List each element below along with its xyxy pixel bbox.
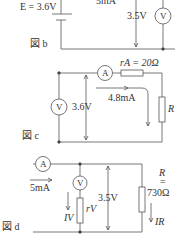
voltage-label: 3.5V [127,10,148,21]
resistor-label: R [167,103,174,114]
current-label: 5mA [96,0,117,6]
resistor-value: 730Ω [147,187,169,198]
figure-caption-c: 図 c [22,130,40,141]
voltage-label: 3.5V [98,192,119,203]
current-label: 4.8mA [108,92,136,103]
voltmeter-symbol: V [160,11,167,21]
resistor-equals: = [160,176,166,187]
voltmeter-symbol: V [56,102,63,112]
current-label: 5mA [30,182,51,193]
figure-caption-d: 図 d [2,221,20,232]
source-label: E = 3.6V [20,1,57,12]
ammeter-resistance-label: rA = 20Ω [120,57,159,68]
voltmeter-current-label: IV [63,212,75,223]
resistor-current-label: IR [154,216,164,227]
ammeter-resistor [121,70,143,76]
figure-d [30,157,153,234]
junction-dot [79,231,82,234]
voltmeter-resistor [77,198,83,223]
voltage-label: 3.6V [72,101,93,112]
voltmeter-symbol: V [77,178,84,188]
junction-dot [162,48,165,51]
ammeter-symbol: A [40,159,47,169]
resistor-r [139,187,145,212]
figure-b [52,0,175,50]
resistor-r [159,97,165,122]
ammeter-symbol: A [102,68,109,78]
figure-caption-b: 図 b [30,38,48,49]
voltmeter-resistance-label: rV [86,203,98,214]
